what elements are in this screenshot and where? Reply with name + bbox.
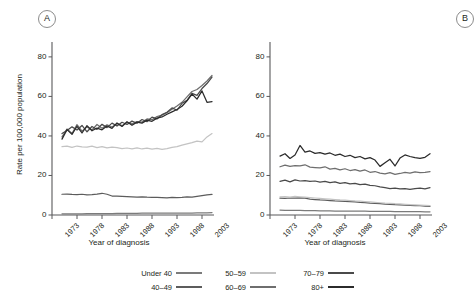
series-line bbox=[62, 77, 212, 134]
y-axis-label-a: Rate per 100,000 population bbox=[15, 50, 24, 200]
y-tick-label: 20 bbox=[25, 170, 47, 179]
y-tick-label: 0 bbox=[25, 210, 47, 219]
legend-item-label: Under 40 bbox=[128, 269, 176, 278]
panel-b: B Year of diagnosis 02040608019731978198… bbox=[218, 0, 436, 262]
legend-item-swatch bbox=[250, 286, 276, 288]
legend-column: 50–5960–69 bbox=[202, 266, 276, 294]
y-tick-label: 80 bbox=[243, 52, 265, 61]
legend-item-label: 70–79 bbox=[280, 269, 328, 278]
y-tick-label: 80 bbox=[25, 52, 47, 61]
legend-column: 70–7980+ bbox=[280, 266, 354, 294]
legend-item-label: 60–69 bbox=[202, 283, 250, 292]
series-line bbox=[62, 193, 212, 198]
legend-item-swatch bbox=[250, 272, 276, 274]
y-tick-label: 60 bbox=[25, 91, 47, 100]
y-tick-label: 60 bbox=[243, 91, 265, 100]
legend-item-label: 80+ bbox=[280, 283, 328, 292]
y-tick-label: 0 bbox=[243, 210, 265, 219]
y-tick-label: 40 bbox=[243, 131, 265, 140]
panel-a: A Rate per 100,000 population Year of di… bbox=[0, 0, 218, 262]
legend-item-label: 50–59 bbox=[202, 269, 250, 278]
panel-b-tag: B bbox=[456, 10, 474, 28]
series-line bbox=[280, 210, 430, 212]
series-line bbox=[280, 165, 430, 174]
y-tick-label: 40 bbox=[25, 131, 47, 140]
series-line bbox=[62, 134, 212, 150]
legend-item-swatch bbox=[328, 286, 354, 288]
legend-item[interactable]: Under 40 bbox=[128, 266, 202, 280]
x-axis-label-b: Year of diagnosis bbox=[226, 238, 444, 247]
y-tick-label: 20 bbox=[243, 170, 265, 179]
legend-item[interactable]: 50–59 bbox=[202, 266, 276, 280]
legend-item[interactable]: 70–79 bbox=[280, 266, 354, 280]
legend-column: Under 4040–49 bbox=[128, 266, 202, 294]
legend-item-swatch bbox=[176, 272, 202, 274]
legend-item[interactable]: 40–49 bbox=[128, 280, 202, 294]
legend-item[interactable]: 80+ bbox=[280, 280, 354, 294]
legend-item-swatch bbox=[328, 272, 354, 274]
series-line bbox=[280, 145, 430, 166]
series-line bbox=[62, 91, 212, 139]
series-line bbox=[280, 180, 430, 189]
legend-item-swatch bbox=[176, 286, 202, 288]
legend: Under 4040–4950–5960–6970–7980+ bbox=[0, 266, 436, 307]
legend-item-label: 40–49 bbox=[128, 283, 176, 292]
legend-item[interactable]: 60–69 bbox=[202, 280, 276, 294]
series-line bbox=[62, 213, 212, 214]
